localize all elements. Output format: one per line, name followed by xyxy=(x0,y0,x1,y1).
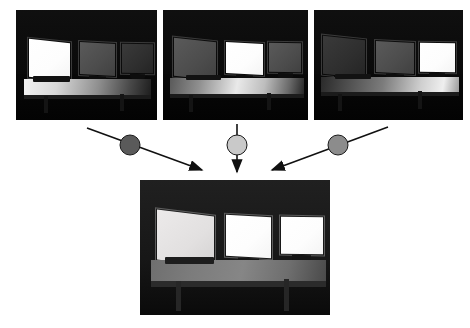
monitor-right xyxy=(418,40,457,74)
monitor-center-screen xyxy=(80,42,115,76)
monitor-center xyxy=(224,212,273,259)
weight-node-center xyxy=(227,135,247,155)
desk-surface xyxy=(170,78,303,93)
monitor-center xyxy=(78,40,117,78)
desk-leg-right xyxy=(120,94,124,112)
keyboard xyxy=(165,257,214,264)
monitor-center xyxy=(374,39,416,76)
monitor-center-screen xyxy=(376,41,414,74)
exposure-fusion-figure xyxy=(0,0,470,328)
desk-leg-left xyxy=(44,96,48,114)
monitor-right xyxy=(267,40,303,74)
monitor-right xyxy=(120,42,155,76)
monitor-left-screen xyxy=(174,37,216,79)
monitor-right-screen xyxy=(269,43,301,73)
keyboard xyxy=(33,76,70,82)
input-exposure-center-monitor xyxy=(163,10,308,120)
desk-surface xyxy=(321,77,458,92)
desk-surface xyxy=(24,79,151,94)
weight-node-left xyxy=(120,135,140,155)
monitor-right-screen xyxy=(281,217,323,254)
keyboard xyxy=(335,74,371,80)
monitor-left-screen xyxy=(29,38,70,80)
keyboard xyxy=(186,75,221,81)
desk-leg-right xyxy=(284,279,289,311)
arrow-left-to-output xyxy=(87,128,202,170)
desk xyxy=(321,77,458,92)
weight-node-right xyxy=(328,135,348,155)
desk xyxy=(170,78,303,93)
desk-leg-left xyxy=(189,95,193,113)
desk-edge xyxy=(321,92,458,96)
monitor-right xyxy=(279,215,325,256)
monitor-center-screen xyxy=(226,215,271,258)
monitor-center xyxy=(224,40,265,77)
monitor-center-screen xyxy=(226,42,263,75)
desk-leg-right xyxy=(267,93,271,111)
desk-leg-left xyxy=(176,281,181,311)
monitor-right-stand xyxy=(131,74,146,79)
desk xyxy=(24,79,151,94)
output-fused-image xyxy=(140,180,330,315)
desk-leg-right xyxy=(418,91,422,109)
desk-leg-left xyxy=(338,94,342,112)
monitor-right-screen xyxy=(420,42,455,72)
input-exposure-right-monitor xyxy=(314,10,463,120)
monitor-right-screen xyxy=(122,44,153,74)
monitor-right-stand xyxy=(278,73,293,78)
input-exposure-left-monitor xyxy=(16,10,157,120)
arrow-right-to-output xyxy=(272,127,388,170)
monitor-left-screen xyxy=(323,36,365,78)
